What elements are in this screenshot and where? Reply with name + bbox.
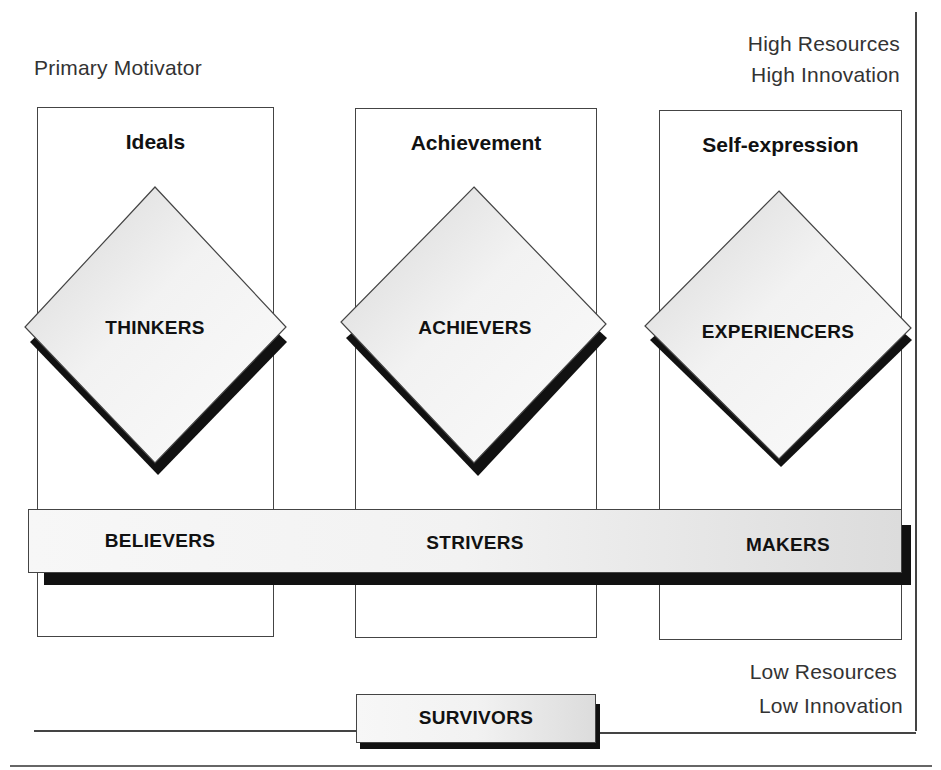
segment-experiencers: EXPERIENCERS	[678, 321, 878, 343]
baseline-right	[596, 732, 916, 734]
bottom-rule	[10, 765, 932, 767]
bar-shadow-bottom	[44, 572, 911, 585]
segment-believers: BELIEVERS	[60, 530, 260, 552]
segment-makers: MAKERS	[688, 534, 888, 556]
baseline-left	[34, 730, 356, 732]
segment-thinkers: THINKERS	[55, 317, 255, 339]
low-resources-line1: Low Resources	[700, 655, 903, 689]
bar-shadow-right	[901, 525, 911, 585]
segment-strivers: STRIVERS	[375, 532, 575, 554]
segment-survivors: SURVIVORS	[356, 707, 596, 729]
low-resources-line2: Low Innovation	[700, 689, 903, 723]
segment-achievers: ACHIEVERS	[375, 317, 575, 339]
low-resources-label: Low Resources Low Innovation	[700, 655, 903, 723]
